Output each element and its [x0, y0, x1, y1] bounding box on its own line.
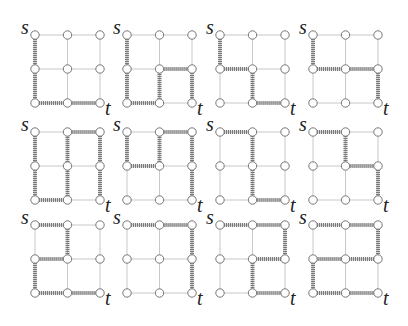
grid-node: [31, 99, 39, 107]
grid-node: [63, 99, 71, 107]
grid-node: [309, 128, 317, 136]
grid-node: [63, 31, 71, 39]
grid-node: [248, 65, 256, 73]
source-label: s: [21, 113, 29, 135]
grid-path-panel: st: [206, 16, 296, 119]
grid-node: [123, 99, 131, 107]
grid-path-panel: st: [21, 113, 111, 216]
grid-node: [374, 128, 382, 136]
grid-node: [123, 196, 131, 204]
grid-node: [309, 162, 317, 170]
grid-path-panel: st: [113, 16, 203, 119]
grid-path-panel: st: [206, 206, 296, 309]
grid-node: [341, 128, 349, 136]
target-label: t: [105, 287, 111, 309]
grid-node: [374, 162, 382, 170]
source-label: s: [113, 16, 121, 38]
grid-node: [281, 128, 289, 136]
target-label: t: [197, 287, 203, 309]
grid-paths-diagram: stststststststststststst: [0, 0, 408, 326]
grid-node: [155, 162, 163, 170]
grid-node: [96, 196, 104, 204]
grid-node: [216, 65, 224, 73]
grid-node: [31, 196, 39, 204]
grid-node: [309, 289, 317, 297]
grid-node: [96, 65, 104, 73]
source-label: s: [206, 206, 214, 228]
grid-node: [341, 31, 349, 39]
grid-path-panel: st: [206, 113, 296, 216]
grid-path-panel: st: [299, 206, 389, 309]
grid-path-panel: st: [113, 113, 203, 216]
grid-node: [248, 255, 256, 263]
grid-node: [123, 31, 131, 39]
grid-node: [31, 255, 39, 263]
grid-node: [216, 221, 224, 229]
grid-node: [188, 31, 196, 39]
grid-node: [96, 99, 104, 107]
grid-node: [96, 289, 104, 297]
grid-node: [248, 31, 256, 39]
grid-node: [309, 65, 317, 73]
grid-node: [63, 65, 71, 73]
grid-node: [155, 196, 163, 204]
target-label: t: [383, 287, 389, 309]
grid-node: [63, 255, 71, 263]
grid-node: [341, 99, 349, 107]
target-label: t: [290, 287, 296, 309]
grid-node: [188, 65, 196, 73]
grid-node: [188, 221, 196, 229]
grid-node: [188, 128, 196, 136]
grid-node: [374, 65, 382, 73]
grid-node: [63, 128, 71, 136]
grid-node: [281, 289, 289, 297]
grid-node: [248, 196, 256, 204]
grid-node: [374, 196, 382, 204]
grid-node: [309, 255, 317, 263]
source-label: s: [206, 16, 214, 38]
grid-node: [96, 128, 104, 136]
grid-node: [216, 196, 224, 204]
source-label: s: [113, 113, 121, 135]
grid-node: [216, 162, 224, 170]
grid-node: [281, 65, 289, 73]
source-label: s: [21, 206, 29, 228]
grid-node: [341, 289, 349, 297]
source-label: s: [299, 16, 307, 38]
source-label: s: [206, 113, 214, 135]
grid-node: [281, 31, 289, 39]
grid-node: [96, 255, 104, 263]
grid-node: [31, 128, 39, 136]
grid-node: [374, 221, 382, 229]
grid-node: [31, 65, 39, 73]
source-label: s: [299, 206, 307, 228]
target-label: t: [197, 97, 203, 119]
grid-node: [123, 221, 131, 229]
grid-node: [374, 255, 382, 263]
grid-node: [341, 255, 349, 263]
grid-node: [155, 99, 163, 107]
grid-node: [188, 289, 196, 297]
grid-path-panel: st: [113, 206, 203, 309]
grid-node: [216, 99, 224, 107]
grid-node: [31, 221, 39, 229]
source-label: s: [299, 113, 307, 135]
grid-node: [281, 221, 289, 229]
target-label: t: [197, 194, 203, 216]
target-label: t: [290, 194, 296, 216]
grid-node: [248, 162, 256, 170]
grid-node: [374, 289, 382, 297]
grid-node: [374, 99, 382, 107]
grid-node: [281, 99, 289, 107]
grid-node: [248, 289, 256, 297]
grid-node: [63, 289, 71, 297]
grid-node: [96, 31, 104, 39]
source-label: s: [21, 16, 29, 38]
grid-node: [63, 196, 71, 204]
grid-node: [309, 99, 317, 107]
grid-node: [155, 31, 163, 39]
source-label: s: [113, 206, 121, 228]
grid-node: [188, 99, 196, 107]
grid-node: [281, 255, 289, 263]
grid-node: [188, 255, 196, 263]
